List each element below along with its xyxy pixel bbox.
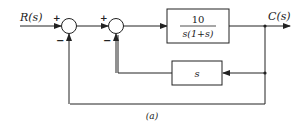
summing-junction-1	[62, 19, 77, 34]
forward-denominator: s(1+s)	[182, 28, 213, 39]
figure-caption: (a)	[146, 111, 159, 121]
summer2-minus-sign: −	[103, 35, 111, 46]
summer1-minus-sign: −	[56, 35, 64, 46]
input-label: R(s)	[19, 11, 43, 24]
summer1-plus-sign: +	[53, 13, 61, 23]
forward-numerator: 10	[192, 14, 205, 25]
feedback-block-label: s	[194, 68, 199, 79]
summer2-plus-sign: +	[100, 13, 108, 23]
block-diagram: R(s) + − + − 10 s(1+s) C(s) s (a)	[0, 0, 307, 125]
output-label: C(s)	[268, 10, 291, 23]
summing-junction-2	[109, 19, 124, 34]
inner-feedback-path	[118, 35, 172, 73]
